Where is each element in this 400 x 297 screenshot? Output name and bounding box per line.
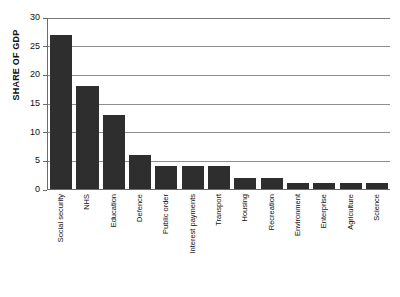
x-axis-category-label: Enterprise (320, 194, 328, 228)
category-slot: Transport (206, 192, 232, 292)
bar (208, 166, 230, 189)
y-axis-tick-label: 25 (0, 42, 40, 51)
category-slot: Housing (232, 192, 258, 292)
bar (261, 178, 283, 189)
bar (234, 178, 256, 189)
x-axis-category-label: Interest payments (189, 194, 197, 254)
bar (287, 183, 309, 189)
category-slot: Environment (285, 192, 311, 292)
category-slot: Public order (153, 192, 179, 292)
bar-chart: SHARE OF GDP 051015202530 Social securit… (0, 0, 400, 297)
x-axis-category-label: Social security (57, 194, 65, 242)
bar-slot (180, 18, 206, 189)
y-axis-tick-label: 30 (0, 13, 40, 22)
bar-slot (127, 18, 153, 189)
bars-group (48, 18, 390, 189)
x-axis-category-label: Recreation (268, 194, 276, 230)
bar-slot (337, 18, 363, 189)
bar (76, 86, 98, 189)
category-slot: Education (101, 192, 127, 292)
bar-slot (232, 18, 258, 189)
bar (103, 115, 125, 189)
y-axis-tick-labels: 051015202530 (0, 18, 40, 190)
x-axis-category-labels: Social securityNHSEducationDefencePublic… (48, 192, 390, 292)
bar-slot (206, 18, 232, 189)
category-slot: Agriculture (337, 192, 363, 292)
category-slot: Science (364, 192, 390, 292)
x-axis-line (47, 189, 390, 190)
bar-slot (259, 18, 285, 189)
bar (366, 183, 388, 189)
category-slot: Interest payments (180, 192, 206, 292)
x-axis-category-label: Education (110, 194, 118, 227)
x-axis-category-label: Housing (241, 194, 249, 222)
category-slot: Defence (127, 192, 153, 292)
bar-slot (285, 18, 311, 189)
x-axis-category-label: Agriculture (347, 194, 355, 230)
x-axis-category-label: Defence (136, 194, 144, 222)
x-axis-category-label: Public order (162, 194, 170, 234)
bar (155, 166, 177, 189)
bar (340, 183, 362, 189)
y-axis-tick-label: 5 (0, 156, 40, 165)
x-axis-category-label: Transport (215, 194, 223, 226)
bar-slot (101, 18, 127, 189)
y-axis-tick-label: 0 (0, 185, 40, 194)
bar-slot (364, 18, 390, 189)
plot-area (47, 18, 390, 190)
y-axis-tick-label: 10 (0, 128, 40, 137)
bar-slot (48, 18, 74, 189)
category-slot: Social security (48, 192, 74, 292)
bar-slot (153, 18, 179, 189)
x-axis-category-label: NHS (83, 194, 91, 210)
category-slot: Enterprise (311, 192, 337, 292)
category-slot: Recreation (259, 192, 285, 292)
bar (182, 166, 204, 189)
x-axis-category-label: Science (373, 194, 381, 221)
bar-slot (74, 18, 100, 189)
bar (50, 35, 72, 189)
x-axis-category-label: Environment (294, 194, 302, 236)
bar-slot (311, 18, 337, 189)
y-axis-tick-label: 20 (0, 70, 40, 79)
category-slot: NHS (74, 192, 100, 292)
y-axis-tick-label: 15 (0, 99, 40, 108)
bar (129, 155, 151, 189)
bar (313, 183, 335, 189)
